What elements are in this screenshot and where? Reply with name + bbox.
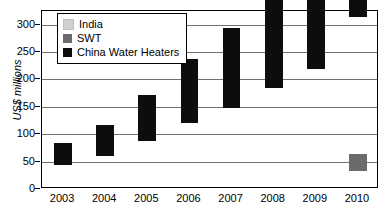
x-tick-label: 2009 <box>303 192 327 204</box>
bar-group[interactable] <box>96 156 114 187</box>
x-tick-label: 2004 <box>92 192 116 204</box>
x-axis-tick-labels: 20032004200520062007200820092010 <box>41 190 378 210</box>
bar-segment[interactable] <box>54 143 72 165</box>
legend-swatch-icon <box>63 48 72 57</box>
bar-group[interactable] <box>181 123 199 187</box>
chart-legend: IndiaSWTChina Water Heaters <box>57 13 187 64</box>
bar-group[interactable] <box>223 108 241 187</box>
bar-chart: US$ millions 050100150200250300 20032004… <box>0 0 383 211</box>
bar-group[interactable] <box>349 17 367 187</box>
y-tick-label: 100 <box>17 127 35 139</box>
legend-label: SWT <box>77 32 101 45</box>
y-tick-mark <box>35 161 40 162</box>
bar-segment[interactable] <box>181 59 199 123</box>
bar-segment[interactable] <box>138 95 156 141</box>
y-tick-mark <box>35 78 40 79</box>
bar-group[interactable] <box>138 141 156 187</box>
bar-group[interactable] <box>54 165 72 187</box>
x-tick-label: 2010 <box>345 192 369 204</box>
x-tick-label: 2003 <box>50 192 74 204</box>
legend-swatch-icon <box>63 34 72 43</box>
x-tick-label: 2007 <box>218 192 242 204</box>
y-tick-mark <box>35 106 40 107</box>
bar-segment[interactable] <box>349 0 367 17</box>
y-tick-label: 150 <box>17 100 35 112</box>
bar-group[interactable] <box>307 69 325 187</box>
bar-segment[interactable] <box>349 154 367 170</box>
y-tick-mark <box>35 24 40 25</box>
y-tick-label: 50 <box>23 155 35 167</box>
y-tick-label: 250 <box>17 45 35 57</box>
y-tick-mark <box>35 188 40 189</box>
legend-item[interactable]: India <box>63 17 179 31</box>
legend-item[interactable]: China Water Heaters <box>63 45 179 59</box>
bar-segment[interactable] <box>223 28 241 107</box>
y-tick-mark <box>35 51 40 52</box>
y-tick-label: 200 <box>17 72 35 84</box>
legend-label: India <box>79 18 103 31</box>
legend-swatch-icon <box>63 19 74 30</box>
y-tick-mark <box>35 133 40 134</box>
x-tick-label: 2008 <box>260 192 284 204</box>
bar-segment[interactable] <box>265 0 283 88</box>
legend-item[interactable]: SWT <box>63 31 179 45</box>
x-tick-label: 2005 <box>134 192 158 204</box>
bar-segment[interactable] <box>307 0 325 69</box>
y-tick-label: 300 <box>17 18 35 30</box>
bar-segment[interactable] <box>96 125 114 156</box>
y-axis-tick-labels: 050100150200250300 <box>0 0 40 211</box>
bar-group[interactable] <box>265 88 283 187</box>
x-tick-label: 2006 <box>176 192 200 204</box>
legend-label: China Water Heaters <box>77 46 179 59</box>
